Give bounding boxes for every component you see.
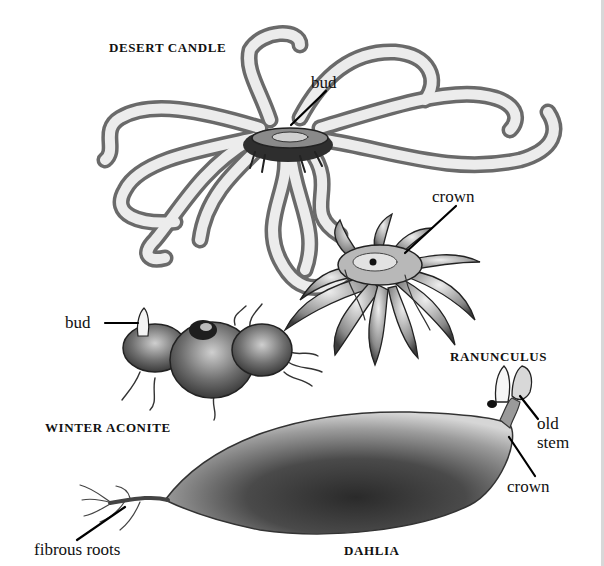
label-winter-aconite-bud: bud [65,314,91,331]
caption-winter-aconite: WINTER ACONITE [45,420,171,436]
botanical-illustration: DESERT CANDLE RANUNCULUS WINTER ACONITE … [0,0,604,566]
leader-ranunculus-crown [405,206,456,253]
label-dahlia-crown: crown [507,478,549,495]
caption-desert-candle: DESERT CANDLE [109,40,226,56]
leader-dahlia-fibrous-roots [77,507,125,540]
caption-dahlia: DAHLIA [344,543,400,559]
dahlia-drawing [80,366,532,534]
label-desert-candle-bud: bud [311,74,337,91]
label-dahlia-old: old [537,415,559,432]
label-dahlia-stem: stem [537,434,569,451]
desert-candle-drawing [105,34,554,288]
label-dahlia-fibrous-roots: fibrous roots [34,541,120,558]
label-ranunculus-crown: crown [432,188,474,205]
caption-ranunculus: RANUNCULUS [450,349,547,365]
leader-dahlia-old-stem [520,396,538,419]
leader-dahlia-crown [509,437,535,476]
